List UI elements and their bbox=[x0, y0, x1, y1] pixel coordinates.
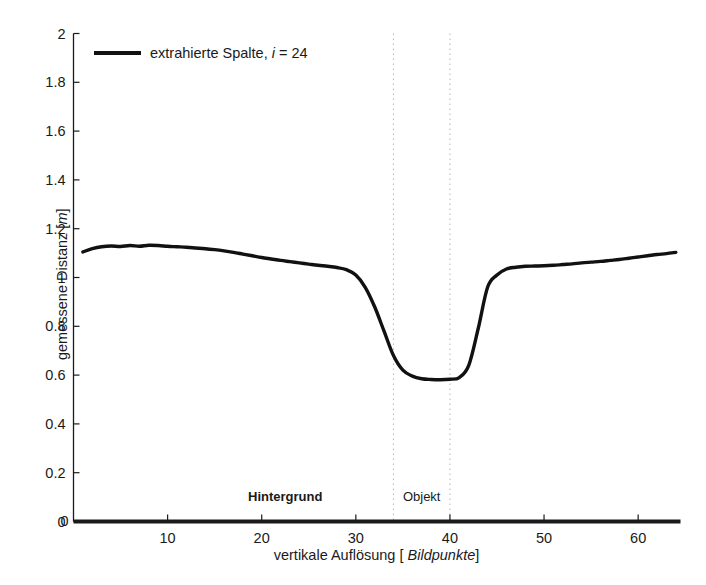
x-tick-label: 20 bbox=[254, 531, 270, 546]
y-axis-label-unit: m bbox=[54, 213, 70, 225]
y-tick-label: 1.6 bbox=[45, 124, 65, 139]
plot-canvas bbox=[0, 0, 706, 585]
x-tick-label: 10 bbox=[160, 531, 176, 546]
y-tick-label: 2 bbox=[57, 26, 65, 41]
legend-label-post: = 24 bbox=[275, 45, 308, 61]
axis-lines bbox=[74, 34, 681, 522]
x-axis-label-unit: Bildpunkte bbox=[408, 547, 476, 563]
x-tick-label: 30 bbox=[348, 531, 364, 546]
chart-legend: extrahierte Spalte, i = 24 bbox=[94, 46, 308, 61]
legend-entry-label: extrahierte Spalte, i = 24 bbox=[150, 46, 308, 61]
legend-line-swatch bbox=[94, 51, 141, 55]
axis-ticks bbox=[74, 34, 639, 522]
y-tick-label: 0.4 bbox=[45, 417, 65, 432]
x-axis-label-pre: vertikale Auflösung [ bbox=[274, 547, 408, 563]
series-line-1 bbox=[83, 245, 676, 379]
annotation-objekt: Objekt bbox=[403, 490, 441, 503]
x-tick-label: 50 bbox=[536, 531, 552, 546]
annotation-hintergrund: Hintergrund bbox=[248, 490, 322, 503]
x-axis-label-post: ] bbox=[475, 547, 479, 563]
y-tick-label: 0.2 bbox=[45, 465, 65, 480]
y-tick-label: 1.8 bbox=[45, 75, 65, 90]
x-tick-label: 0 bbox=[60, 514, 68, 529]
x-axis-label: vertikale Auflösung [ Bildpunkte] bbox=[73, 548, 680, 563]
y-axis-label: gemessene Distanz [m] bbox=[55, 154, 70, 414]
legend-label-pre: extrahierte Spalte, bbox=[150, 45, 272, 61]
object-boundary-lines bbox=[393, 34, 449, 522]
y-axis-label-post: ] bbox=[54, 208, 70, 212]
chart-figure: 00.20.40.60.811.21.41.61.82 010203040506… bbox=[0, 0, 706, 585]
data-series-line bbox=[83, 245, 676, 379]
x-tick-label: 60 bbox=[630, 531, 646, 546]
y-axis-label-pre: gemessene Distanz [ bbox=[54, 225, 70, 360]
x-tick-label: 40 bbox=[442, 531, 458, 546]
